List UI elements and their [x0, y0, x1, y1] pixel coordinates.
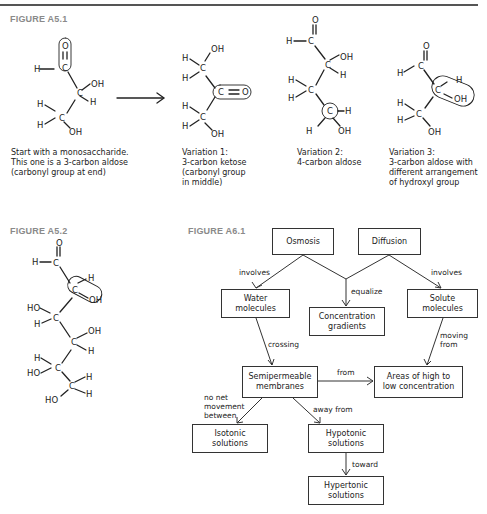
caption-variation2: Variation 2: 4-carbon aldose — [297, 148, 387, 168]
svg-text:H: H — [182, 121, 188, 131]
svg-text:C: C — [59, 113, 65, 123]
svg-text:H: H — [37, 99, 43, 109]
edge-label-crossing: crossing — [268, 340, 299, 349]
svg-text:OH: OH — [88, 326, 101, 336]
node-areas-high-low: Areas of high to low concentration — [374, 366, 463, 398]
svg-text:C: C — [200, 112, 206, 122]
node-solute-molecules: Solute molecules — [407, 289, 478, 318]
svg-text:H: H — [286, 36, 292, 46]
svg-text:OH: OH — [69, 127, 82, 137]
svg-text:C: C — [308, 36, 314, 46]
svg-text:C: C — [416, 109, 422, 119]
node-water-molecules: Water molecules — [221, 289, 290, 318]
svg-text:H: H — [397, 115, 403, 125]
svg-text:C: C — [327, 106, 333, 116]
svg-text:C: C — [308, 85, 314, 95]
svg-text:HO: HO — [27, 303, 40, 313]
edge-label-from: from — [337, 368, 354, 377]
svg-text:H: H — [32, 257, 38, 267]
svg-text:H: H — [86, 372, 92, 382]
svg-text:OH: OH — [211, 44, 224, 54]
svg-text:C: C — [418, 61, 424, 71]
svg-text:OH: OH — [428, 127, 441, 137]
node-hypotonic-solutions: Hypotonic solutions — [308, 424, 384, 453]
svg-text:OH: OH — [340, 52, 353, 62]
svg-text:O: O — [423, 41, 430, 51]
svg-text:C: C — [218, 87, 224, 97]
node-isotonic-solutions: Isotonic solutions — [192, 424, 268, 453]
node-diffusion: Diffusion — [358, 228, 421, 255]
svg-text:HO: HO — [27, 368, 40, 378]
svg-text:OH: OH — [211, 129, 224, 139]
svg-text:H: H — [456, 75, 462, 85]
edge-label-away-from: away from — [313, 405, 353, 414]
svg-text:H: H — [88, 273, 94, 283]
svg-text:OH: OH — [338, 126, 351, 136]
svg-text:O: O — [312, 15, 319, 25]
svg-text:C: C — [62, 63, 68, 73]
svg-text:C: C — [435, 85, 441, 95]
svg-text:H: H — [182, 73, 188, 83]
svg-text:H: H — [182, 53, 188, 63]
svg-text:C: C — [72, 285, 78, 295]
svg-text:H: H — [306, 126, 312, 136]
svg-text:C: C — [200, 63, 206, 73]
svg-text:C: C — [55, 363, 61, 373]
svg-text:H: H — [90, 97, 96, 107]
svg-text:OH: OH — [454, 94, 467, 104]
caption-start: Start with a monosaccharide. This one is… — [11, 148, 161, 178]
svg-text:C: C — [53, 258, 59, 268]
svg-text:H: H — [288, 93, 294, 103]
svg-text:OH: OH — [89, 295, 102, 305]
caption-variation1: Variation 1: 3-carbon ketose (carbonyl g… — [182, 148, 272, 188]
edge-label-involves-right: involves — [431, 268, 462, 277]
svg-text:OH: OH — [91, 79, 104, 89]
svg-text:H: H — [397, 68, 403, 78]
svg-text:H: H — [345, 106, 351, 116]
svg-text:H: H — [34, 319, 40, 329]
edge-label-moving-from: moving from — [440, 331, 468, 349]
svg-text:O: O — [56, 238, 63, 248]
svg-text:H: H — [288, 75, 294, 85]
node-hypertonic-solutions: Hypertonic solutions — [308, 476, 384, 505]
edge-label-no-net-movement: no net movement between — [204, 393, 245, 420]
svg-text:C: C — [69, 381, 75, 391]
svg-text:H: H — [37, 120, 43, 130]
caption-variation3: Variation 3: 3-carbon aldose with differ… — [389, 148, 487, 188]
svg-text:H: H — [182, 101, 188, 111]
svg-text:O: O — [62, 41, 69, 51]
molecule-aldose-4c — [294, 25, 344, 126]
edge-label-toward: toward — [352, 460, 378, 469]
node-concentration-gradients: Concentration gradients — [309, 307, 385, 336]
edge-label-involves-left: involves — [239, 268, 270, 277]
svg-text:C: C — [53, 313, 59, 323]
node-semipermeable-membranes: Semipermeable membranes — [242, 366, 318, 398]
node-osmosis: Osmosis — [272, 228, 334, 255]
svg-text:C: C — [77, 88, 83, 98]
svg-text:H: H — [397, 98, 403, 108]
svg-text:H: H — [88, 346, 94, 356]
svg-text:C: C — [71, 337, 77, 347]
svg-text:C: C — [325, 60, 331, 70]
svg-text:HO: HO — [45, 395, 58, 405]
edge-label-equalize: equalize — [351, 287, 382, 296]
svg-text:H: H — [86, 389, 92, 399]
molecule-aldose-3c — [40, 38, 90, 128]
svg-text:H: H — [34, 64, 40, 74]
molecule-hexose — [40, 247, 105, 396]
svg-text:H: H — [340, 70, 346, 80]
svg-text:O: O — [242, 87, 249, 97]
svg-text:H: H — [34, 353, 40, 363]
